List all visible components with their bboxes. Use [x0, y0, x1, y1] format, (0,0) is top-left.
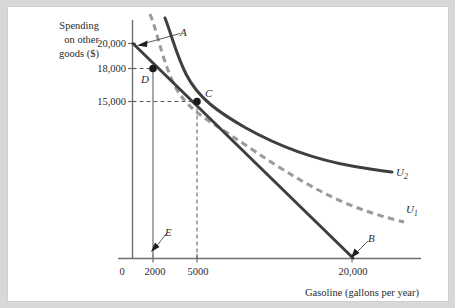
point-c-marker: [193, 98, 201, 106]
y-tick-label-20000: 20,000: [97, 38, 126, 49]
curve-label-u1-sub: 1: [414, 209, 418, 218]
y-axis-title-line2: on other: [64, 34, 99, 45]
arrow-head-b: [351, 249, 360, 259]
y-axis-title: Spending on other goods ($): [59, 20, 100, 60]
y-axis-title-line1: Spending: [59, 20, 99, 31]
x-tick-label-20000: 20,000: [339, 266, 368, 277]
y-tick-label-18000: 18,000: [97, 63, 126, 74]
annotation-label-a: A: [179, 26, 187, 38]
arrow-head-a: [137, 40, 148, 47]
point-label-d: D: [140, 73, 149, 85]
arrow-line-a: [146, 34, 180, 44]
economics-indifference-curve-chart: Spending on other goods ($) 20,000 18,00…: [0, 0, 455, 308]
x-tick-label-0: 0: [119, 266, 124, 277]
annotation-arrows: [137, 34, 368, 259]
curve-u2: [165, 18, 392, 172]
annotation-label-e: E: [164, 226, 172, 238]
x-axis-title: Gasoline (gallons per year): [305, 287, 420, 299]
point-label-c: C: [205, 87, 213, 99]
curve-label-u1: U1: [406, 203, 418, 218]
y-axis-title-line3: goods ($): [59, 48, 99, 60]
arrow-line-b: [356, 241, 368, 253]
figure-page: Spending on other goods ($) 20,000 18,00…: [0, 0, 455, 308]
curve-label-u2-sub: 2: [404, 172, 408, 181]
curve-label-u2: U2: [396, 166, 408, 181]
point-d-marker: [149, 65, 157, 73]
y-tick-label-15000: 15,000: [97, 96, 126, 107]
x-tick-label-5000: 5000: [188, 266, 209, 277]
curve-u1: [150, 14, 404, 222]
x-tick-label-2000: 2000: [145, 266, 166, 277]
annotation-label-b: B: [368, 232, 375, 244]
